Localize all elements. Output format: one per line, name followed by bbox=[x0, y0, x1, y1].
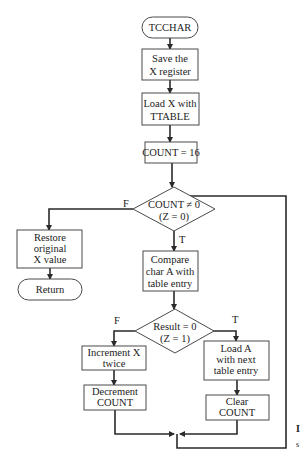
node-text: X value bbox=[34, 254, 67, 265]
node-text: (Z = 0) bbox=[159, 211, 189, 223]
edge-dec-merge bbox=[115, 410, 174, 434]
node-text: original bbox=[34, 243, 67, 254]
label-count-true: T bbox=[179, 234, 186, 245]
node-text: Increment X bbox=[88, 347, 141, 358]
node-text: Compare bbox=[151, 254, 190, 265]
node-text: Load A bbox=[220, 343, 252, 354]
node-compare: Compare char A with table entry bbox=[143, 251, 198, 291]
node-text: TCCHAR bbox=[149, 22, 192, 33]
node-text: X register bbox=[149, 66, 191, 77]
node-start: TCCHAR bbox=[142, 17, 198, 38]
node-init-count: COUNT = 16 bbox=[142, 142, 200, 163]
node-text: with next bbox=[216, 354, 255, 365]
label-count-false: F bbox=[123, 198, 129, 209]
node-text: table entry bbox=[214, 365, 259, 376]
node-save-x: Save the X register bbox=[142, 49, 198, 80]
cropped-caption-fragment: s bbox=[296, 440, 299, 449]
node-inc-x: Increment X twice bbox=[82, 346, 146, 370]
node-text: Save the bbox=[152, 53, 188, 64]
node-text: twice bbox=[103, 358, 126, 369]
node-count-check: COUNT ≠ 0 (Z = 0) bbox=[133, 187, 215, 231]
edge-result-true bbox=[213, 331, 236, 341]
node-load-x: Load X with TTABLE bbox=[142, 93, 199, 125]
node-text: char A with bbox=[146, 266, 195, 277]
label-result-false: F bbox=[114, 315, 120, 326]
cropped-caption-fragment: I bbox=[296, 423, 300, 434]
edge-clear-merge bbox=[180, 420, 237, 434]
node-text: TTABLE bbox=[150, 111, 189, 122]
node-text: COUNT bbox=[219, 407, 256, 418]
edge-count-false bbox=[49, 209, 133, 230]
node-text: COUNT ≠ 0 bbox=[148, 199, 200, 210]
flowchart-canvas: F T F T TCCHAR Save the X register Load … bbox=[0, 0, 300, 458]
edge-result-false bbox=[114, 331, 135, 346]
node-text: COUNT bbox=[97, 397, 134, 408]
node-clear-count: Clear COUNT bbox=[206, 395, 269, 420]
node-text: (Z = 1) bbox=[160, 333, 190, 345]
node-dec-count: Decrement COUNT bbox=[84, 385, 146, 410]
node-load-a: Load A with next table entry bbox=[204, 341, 269, 380]
node-restore-x: Restore original X value bbox=[17, 230, 82, 268]
node-text: Clear bbox=[226, 396, 249, 407]
node-text: Load X with bbox=[143, 98, 197, 109]
node-text: Restore bbox=[34, 232, 66, 243]
node-text: Result = 0 bbox=[153, 321, 196, 332]
label-result-true: T bbox=[232, 314, 239, 325]
node-text: Return bbox=[36, 284, 65, 295]
node-text: Decrement bbox=[92, 386, 138, 397]
node-result-check: Result = 0 (Z = 1) bbox=[135, 309, 214, 353]
node-text: table entry bbox=[148, 278, 193, 289]
node-text: COUNT = 16 bbox=[142, 147, 200, 158]
node-return: Return bbox=[18, 279, 82, 300]
